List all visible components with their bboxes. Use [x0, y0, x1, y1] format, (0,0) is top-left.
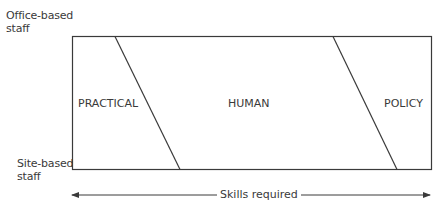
office-based-line2: staff	[6, 22, 73, 35]
skills-required-label: Skills required	[217, 188, 301, 201]
office-based-staff-label: Office-based staff	[6, 9, 73, 35]
office-based-line1: Office-based	[6, 9, 73, 22]
zone-practical-label: PRACTICAL	[78, 97, 138, 110]
zone-policy-label: POLICY	[384, 97, 423, 110]
site-based-line1: Site-based	[17, 157, 73, 170]
site-based-staff-label: Site-based staff	[17, 157, 73, 183]
site-based-line2: staff	[17, 170, 73, 183]
zone-human-label: HUMAN	[228, 97, 270, 110]
